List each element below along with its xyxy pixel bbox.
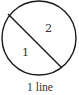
dividing-line [8,14,62,68]
diagram-caption: 1 line [27,81,53,93]
circle-outline [2,1,76,75]
region-label-2: 2 [45,22,52,35]
region-label-1: 1 [22,46,29,59]
circle-division-diagram: 2 1 1 line [0,0,79,95]
